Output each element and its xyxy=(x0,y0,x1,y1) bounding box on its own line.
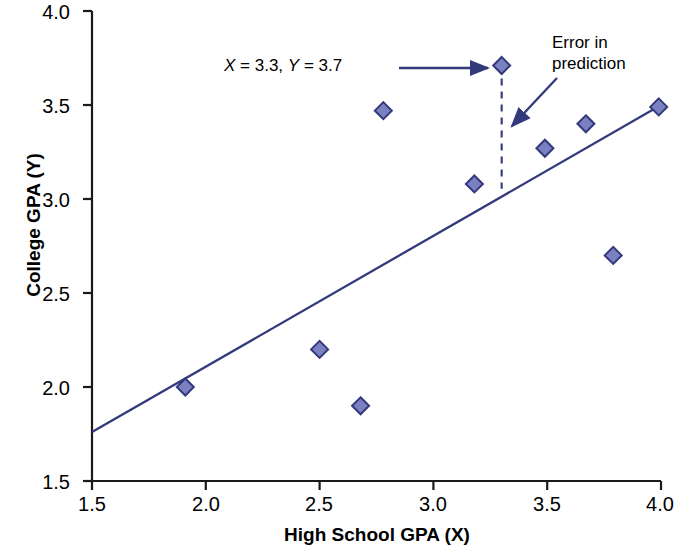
y-axis-ticks xyxy=(83,11,92,481)
axes xyxy=(92,11,661,481)
data-point-marker xyxy=(536,140,553,157)
x-axis-ticks xyxy=(92,481,661,490)
data-point-marker xyxy=(375,102,392,119)
data-point-markers xyxy=(177,57,667,414)
data-point-marker xyxy=(352,397,369,414)
annotation-arrow-diagonal xyxy=(512,78,557,126)
data-point-marker xyxy=(577,115,594,132)
data-point-marker xyxy=(466,175,483,192)
data-point-marker xyxy=(493,57,510,74)
data-point-marker xyxy=(605,247,622,264)
data-point-marker xyxy=(650,98,667,115)
regression-line xyxy=(92,105,661,432)
data-point-marker xyxy=(311,341,328,358)
